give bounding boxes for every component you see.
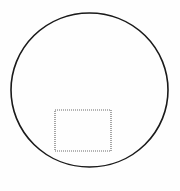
geometric-figure <box>0 0 180 191</box>
figure-background <box>0 0 180 191</box>
figure-canvas: Circle with inscribed dotted rectangle <box>0 0 180 191</box>
